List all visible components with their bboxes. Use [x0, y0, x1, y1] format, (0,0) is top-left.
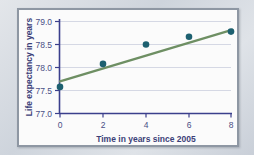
x-tick-labels: 0 2 4 6 8: [58, 120, 234, 130]
x-tick-label: 2: [101, 120, 106, 130]
data-point: [228, 28, 235, 35]
data-point: [100, 61, 107, 68]
y-tick-label: 78.5: [35, 40, 52, 50]
y-axis-title: Life expectancy in years: [24, 18, 34, 117]
y-tick-label: 78.0: [35, 63, 52, 73]
screenshot-root: 79.0 78.5 78.0 77.5 77.0 0 2 4 6 8: [0, 0, 254, 155]
trendline: [60, 30, 232, 82]
data-point: [186, 33, 193, 40]
x-tick-label: 0: [58, 120, 63, 130]
data-point: [57, 84, 64, 91]
scatter-chart: 79.0 78.5 78.0 77.5 77.0 0 2 4 6 8: [19, 10, 237, 145]
chart-figure-frame: 79.0 78.5 78.0 77.5 77.0 0 2 4 6 8: [17, 8, 239, 147]
y-tick-label: 77.5: [35, 86, 52, 96]
x-tick-label: 6: [187, 120, 192, 130]
y-tick-label: 79.0: [35, 17, 52, 27]
x-axis-title: Time in years since 2005: [96, 134, 196, 144]
x-tick-label: 4: [144, 120, 149, 130]
x-tick-label: 8: [229, 120, 234, 130]
chart-plot-area: 79.0 78.5 78.0 77.5 77.0 0 2 4 6 8: [19, 10, 237, 145]
y-tick-label: 77.0: [35, 109, 52, 119]
y-tick-labels: 79.0 78.5 78.0 77.5 77.0: [35, 17, 52, 119]
y-axis-ticks: [55, 22, 59, 114]
data-point: [143, 41, 150, 48]
